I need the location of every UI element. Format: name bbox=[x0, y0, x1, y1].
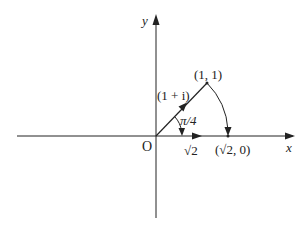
point-sqrt2-0 bbox=[227, 135, 230, 138]
complex-rotation-diagram: y x O (1, 1) (1 + i) π/4 √2 (√2, 0) bbox=[0, 0, 307, 232]
y-axis-label: y bbox=[140, 13, 148, 28]
x-axis-label: x bbox=[285, 140, 292, 155]
x-axis-arrow-icon bbox=[285, 133, 295, 140]
x-vector-arrow-icon bbox=[192, 133, 202, 140]
rotated-point-label: (√2, 0) bbox=[215, 142, 250, 157]
angle-arc-arrow-icon bbox=[179, 128, 186, 136]
vector-label: (1 + i) bbox=[157, 88, 190, 103]
y-axis-arrow-icon bbox=[153, 14, 160, 25]
origin-label: O bbox=[142, 139, 152, 154]
vector-direction-arrow-icon bbox=[179, 103, 188, 112]
angle-label: π/4 bbox=[180, 113, 197, 128]
y-axis bbox=[153, 14, 160, 218]
sqrt2-label: √2 bbox=[184, 143, 198, 158]
rotation-arc bbox=[207, 83, 232, 138]
point-1-1-label: (1, 1) bbox=[194, 67, 222, 82]
